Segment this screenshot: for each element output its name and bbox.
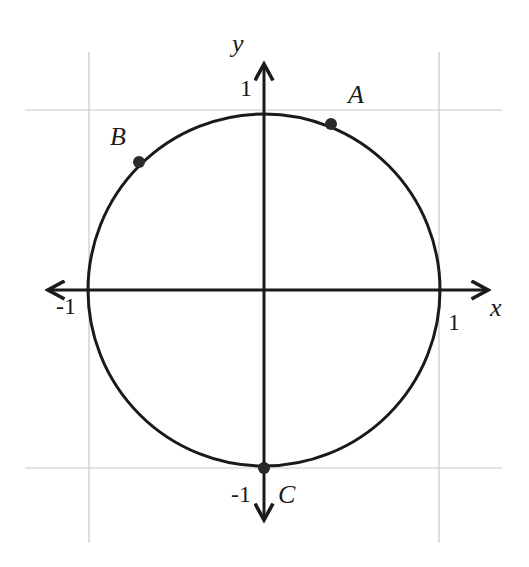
x-tick-neg: -1 [56, 293, 76, 319]
point-c-marker [258, 462, 270, 474]
point-b-marker [133, 156, 145, 168]
point-a: A [325, 80, 364, 130]
point-a-marker [325, 118, 337, 130]
point-b-label: B [110, 122, 126, 151]
point-b: B [110, 122, 145, 168]
y-axis-label: y [229, 29, 244, 58]
x-tick-pos: 1 [448, 309, 460, 335]
y-tick-neg: -1 [231, 481, 251, 507]
x-axis-label: x [489, 293, 502, 322]
point-a-label: A [346, 80, 364, 109]
y-tick-pos: 1 [240, 75, 252, 101]
unit-circle-diagram: x y 1 -1 1 -1 A B C [0, 0, 529, 567]
point-c-label: C [278, 480, 296, 509]
